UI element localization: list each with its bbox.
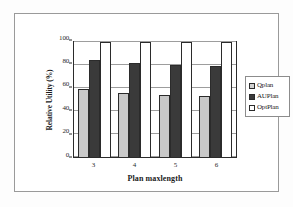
x-tick-label: 6 [196,159,237,173]
bar-qplan-5 [159,95,170,157]
legend-swatch-icon [249,105,255,111]
y-tick-mark [69,110,72,111]
plot-area [73,41,237,158]
legend-item-qplan: Qplan [249,80,287,91]
y-tick-label: 60 [62,81,69,88]
y-axis-ticks: 020406080100 [51,41,72,158]
bar-auplan-5 [170,65,181,157]
legend-label: Qplan [257,82,273,89]
y-tick-mark [69,86,72,87]
x-axis-title: Plan maxlength [73,174,237,183]
bar-optplan-4 [140,42,151,157]
bar-optplan-3 [100,42,111,157]
bar-series-container [74,42,236,157]
y-tick-mark [69,40,72,41]
bar-auplan-4 [129,63,140,157]
x-tick-label: 4 [114,159,155,173]
legend-label: AUPlan [257,93,278,100]
y-tick-label: 40 [62,104,69,111]
x-axis-ticks: 3456 [73,159,237,173]
y-tick-mark [69,157,72,158]
y-tick-label: 20 [62,128,69,135]
bar-auplan-3 [89,60,100,157]
bar-group-6 [196,42,237,157]
bar-qplan-6 [199,96,210,157]
legend-item-auplan: AUPlan [249,91,287,102]
y-tick-label: 80 [62,57,69,64]
chart-frame: Relative Utility (%) 020406080100 3456 P… [14,13,279,192]
bar-qplan-3 [78,89,89,157]
legend-swatch-icon [249,83,255,89]
bar-qplan-4 [118,93,129,157]
legend: QplanAUPlanOptPlan [245,76,290,117]
bar-auplan-6 [210,66,221,157]
bar-group-4 [115,42,156,157]
bar-optplan-6 [221,42,232,157]
y-axis-title-container: Relative Utility (%) [29,41,51,158]
legend-swatch-icon [249,94,255,100]
y-tick-mark [69,133,72,134]
bar-optplan-5 [181,42,192,157]
y-tick-label: 100 [59,34,69,41]
bar-group-3 [74,42,115,157]
x-tick-label: 3 [73,159,114,173]
y-tick-mark [69,63,72,64]
legend-item-optplan: OptPlan [249,102,287,113]
bar-group-5 [155,42,196,157]
legend-label: OptPlan [257,104,279,111]
figure: Relative Utility (%) 020406080100 3456 P… [0,0,293,207]
x-tick-label: 5 [155,159,196,173]
